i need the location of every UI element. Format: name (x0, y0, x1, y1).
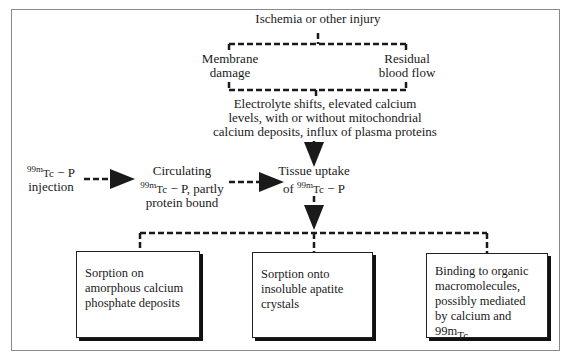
mechanism-text: Sorption onto insoluble apatite crystals (261, 267, 343, 311)
mechanism-box-amorphous-calcium: Sorption on amorphous calcium phosphate … (76, 251, 200, 338)
mechanism-box-apatite-crystals: Sorption onto insoluble apatite crystals (252, 252, 373, 338)
circulating-node: Circulating 99mTc − P, partly protein bo… (132, 164, 232, 210)
mechanism-symbol: Tc (457, 329, 468, 341)
mechanism-text: Binding to organic macromolecules, possi… (435, 264, 529, 323)
trigger-label: Ischemia or other injury (218, 12, 418, 26)
tissue-uptake-node: Tissue uptake of 99mTc − P (274, 164, 354, 196)
injection-label: injection (18, 180, 84, 194)
circulating-compound: 99mTc − P, partly (132, 178, 232, 196)
uptake-title: Tissue uptake (274, 164, 354, 178)
branch-line: damage (200, 66, 260, 80)
result-line: calcium deposits, influx of plasma prote… (200, 125, 450, 139)
branch-line: blood flow (372, 66, 442, 80)
circulating-title: Circulating (132, 164, 232, 178)
branch-residual-blood-flow: Residual blood flow (372, 52, 442, 80)
branch-membrane-damage: Membrane damage (200, 52, 260, 80)
uptake-compound: of 99mTc − P (274, 178, 354, 196)
injection-node: 99mTc − P injection (18, 162, 84, 194)
branch-line: Residual (372, 52, 442, 66)
result-line: Electrolyte shifts, elevated calcium (200, 97, 450, 111)
mechanism-box-organic-macromolecules: Binding to organic macromolecules, possi… (426, 253, 548, 338)
branch-line: Membrane (200, 52, 260, 66)
result-line: levels, with or without mitochondrial (200, 111, 450, 125)
circulating-note: protein bound (132, 196, 232, 210)
mechanism-text: Sorption on amorphous calcium phosphate … (85, 266, 183, 310)
mechanism-isotope: 99m (435, 324, 457, 338)
injection-compound: 99mTc − P (18, 162, 84, 180)
physiological-result: Electrolyte shifts, elevated calcium lev… (200, 97, 450, 139)
